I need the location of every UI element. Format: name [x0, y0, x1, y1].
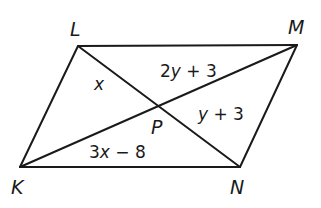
diagonal-MK	[20, 45, 297, 167]
intersection-label-P: P	[151, 116, 163, 138]
vertex-label-L: L	[70, 18, 81, 40]
vertex-label-N: N	[230, 176, 244, 198]
side-KL	[20, 46, 78, 167]
segment-label-KP: 3x − 8	[89, 142, 146, 162]
side-LM	[78, 45, 297, 46]
vertex-label-M: M	[288, 16, 304, 38]
vertex-label-K: K	[11, 176, 25, 198]
side-MN	[240, 45, 297, 167]
parallelogram-diagram: L M K N P x 2y + 3 y + 3 3x − 8	[0, 0, 321, 208]
segment-label-MP: 2y + 3	[160, 61, 217, 81]
segment-label-NP: y + 3	[197, 104, 244, 124]
segment-label-LP: x	[93, 74, 105, 94]
